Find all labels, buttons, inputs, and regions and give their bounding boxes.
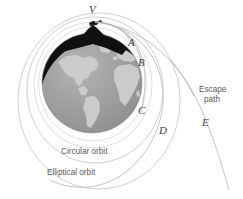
newton-cannonball-diagram: V A B C D E Escape path Circular orbit E… bbox=[0, 0, 243, 199]
label-escape-path-line1: Escape bbox=[199, 85, 226, 94]
label-trajectory-b: B bbox=[138, 56, 145, 68]
label-trajectory-e: E bbox=[202, 116, 209, 128]
label-elliptical-orbit: Elliptical orbit bbox=[47, 168, 95, 177]
label-apex-v: V bbox=[89, 3, 96, 15]
label-escape-path-line2: path bbox=[204, 95, 220, 104]
cannon-icon bbox=[89, 20, 102, 27]
label-trajectory-d: D bbox=[159, 124, 167, 136]
label-trajectory-c: C bbox=[138, 104, 145, 116]
label-trajectory-a: A bbox=[128, 36, 135, 48]
label-circular-orbit: Circular orbit bbox=[61, 147, 107, 156]
